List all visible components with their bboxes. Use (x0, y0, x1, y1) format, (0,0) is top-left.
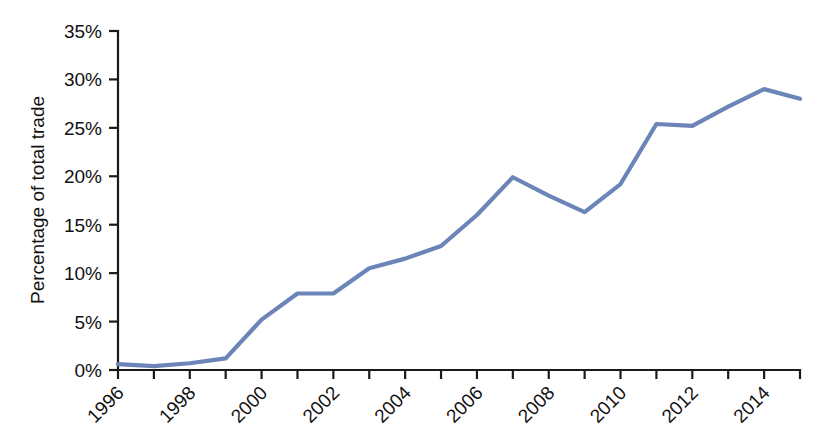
y-tick-label: 0% (75, 360, 103, 381)
x-tick-label: 2000 (227, 382, 272, 427)
y-tick-label: 5% (75, 312, 103, 333)
x-tick-label: 1998 (155, 382, 200, 427)
y-axis-label-text: Percentage of total trade (27, 96, 48, 304)
y-tick-label: 30% (64, 69, 102, 90)
x-tick-label: 2006 (442, 382, 487, 427)
line-chart: Percentage of total trade 0%5%10%15%20%2… (0, 0, 831, 446)
x-tick-labels: 1996199820002002200420062008201020122014 (83, 382, 774, 427)
x-tick-label: 2002 (298, 382, 343, 427)
x-tick-label: 2004 (370, 382, 415, 427)
y-tick-marks (109, 31, 118, 370)
y-tick-label: 25% (64, 118, 102, 139)
y-tick-label: 20% (64, 166, 102, 187)
x-tick-label: 2010 (586, 382, 631, 427)
x-tick-label: 1996 (83, 382, 128, 427)
x-tick-label: 2012 (657, 382, 702, 427)
x-tick-marks (118, 370, 800, 379)
y-tick-labels: 0%5%10%15%20%25%30%35% (64, 21, 102, 381)
y-tick-label: 10% (64, 263, 102, 284)
y-axis-label: Percentage of total trade (27, 96, 48, 304)
data-series-line (118, 89, 800, 366)
y-tick-label: 35% (64, 21, 102, 42)
x-tick-label: 2008 (514, 382, 559, 427)
chart-canvas: Percentage of total trade 0%5%10%15%20%2… (0, 0, 831, 446)
x-tick-label: 2014 (729, 382, 774, 427)
y-tick-label: 15% (64, 215, 102, 236)
